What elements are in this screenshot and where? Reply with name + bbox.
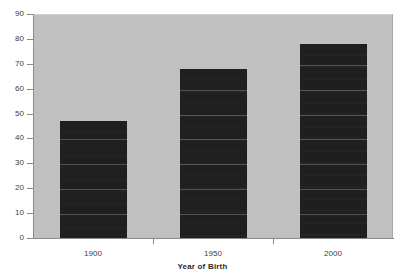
bar-texture (180, 69, 247, 238)
x-axis-tick-label: 1900 (53, 249, 133, 258)
gridline (33, 15, 392, 16)
bar (60, 121, 127, 238)
bar (180, 69, 247, 238)
x-axis-tick-label: 1950 (173, 249, 253, 258)
y-axis-tick-label: 80 (0, 35, 24, 43)
y-axis-tick (27, 188, 33, 189)
y-axis-tick (27, 14, 33, 15)
bar-texture (60, 121, 127, 238)
y-axis-line (33, 14, 34, 239)
y-axis-tick (27, 114, 33, 115)
y-axis-tick-label: 30 (0, 159, 24, 167)
bar-chart: 0102030405060708090 190019502000 Year of… (0, 0, 405, 276)
y-axis-tick (27, 138, 33, 139)
x-axis-line (33, 238, 394, 239)
y-axis-tick (27, 39, 33, 40)
y-axis-tick-label: 40 (0, 134, 24, 142)
y-axis-tick (27, 64, 33, 65)
y-axis-tick-label: 20 (0, 184, 24, 192)
y-axis-tick-label: 90 (0, 10, 24, 18)
y-axis-tick-label: 60 (0, 85, 24, 93)
x-axis-title: Year of Birth (0, 262, 405, 271)
x-axis-tick (273, 239, 274, 244)
y-axis-tick (27, 89, 33, 90)
y-axis-tick-label: 0 (0, 234, 24, 242)
y-axis-tick (27, 213, 33, 214)
y-axis-tick-label: 10 (0, 209, 24, 217)
y-axis-tick-label: 50 (0, 110, 24, 118)
y-axis-tick (27, 163, 33, 164)
bar (300, 44, 367, 238)
bar-texture (300, 44, 367, 238)
gridline (33, 40, 392, 41)
x-axis-tick-label: 2000 (293, 249, 373, 258)
y-axis-tick (27, 238, 33, 239)
x-axis-tick (153, 239, 154, 244)
y-axis-tick-label: 70 (0, 60, 24, 68)
